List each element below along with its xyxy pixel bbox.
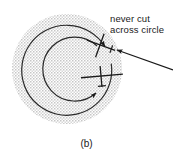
- annotation-text-line-1: never cut: [110, 14, 150, 25]
- stippled-traffic-circle: [12, 14, 122, 124]
- figure-panel-b: never cut across circle (b): [0, 0, 173, 158]
- annotation-text-line-2: across circle: [110, 25, 164, 36]
- panel-caption: (b): [0, 138, 173, 149]
- annotation-pointer-arrow: [117, 50, 173, 70]
